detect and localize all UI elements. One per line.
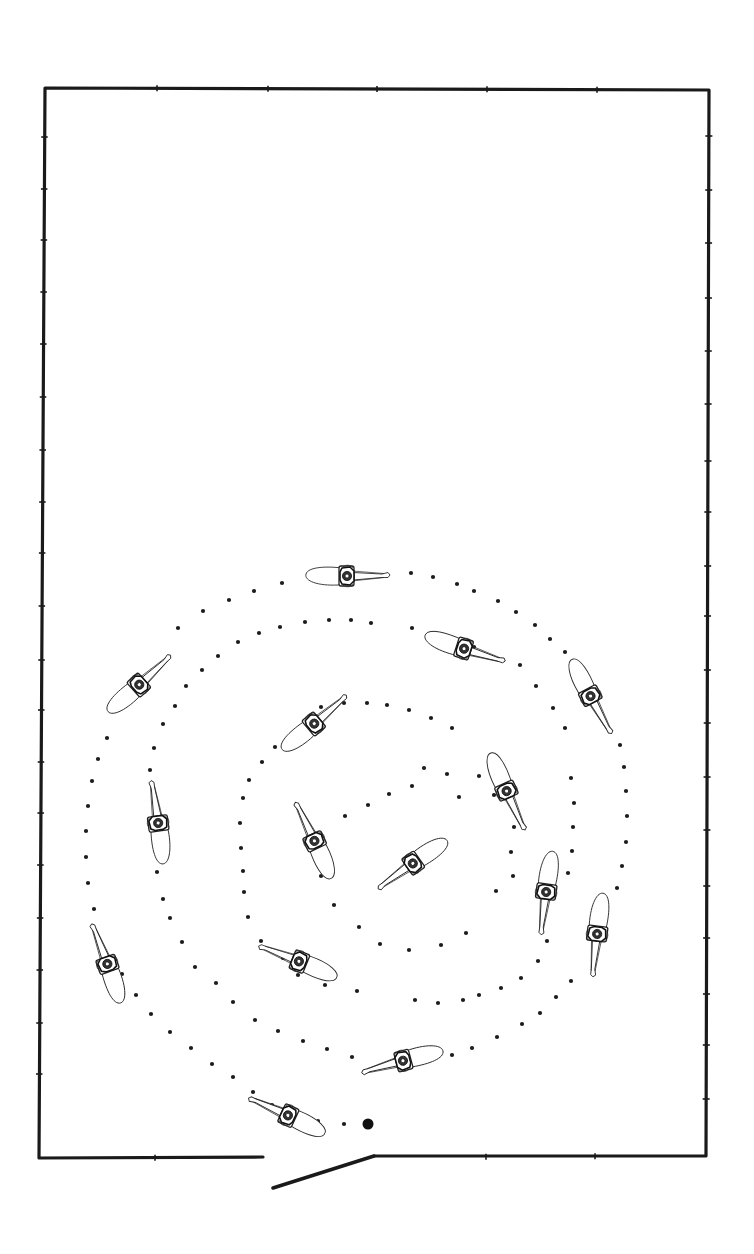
path-dot [92, 907, 96, 911]
path-dot [387, 792, 391, 796]
path-dot [413, 998, 417, 1002]
path-dot [514, 610, 518, 614]
path-dot [241, 796, 245, 800]
path-dot [512, 825, 516, 829]
path-dot [365, 701, 369, 705]
gate-leaf [273, 1156, 374, 1188]
path-dot [227, 598, 231, 602]
path-dot [253, 1018, 257, 1022]
horse-and-rider-icon [255, 935, 341, 987]
path-dot [563, 726, 567, 730]
path-dot [343, 814, 347, 818]
arena-diagram [0, 0, 754, 1254]
path-dot [357, 925, 361, 929]
horse-and-rider-icon [581, 892, 613, 978]
path-dot [189, 1046, 193, 1050]
path-dot [149, 1012, 153, 1016]
path-dot [499, 986, 503, 990]
horse-and-rider-icon [82, 920, 131, 1007]
horse-and-rider-icon [562, 655, 621, 739]
horse-and-rider-icon [286, 797, 341, 882]
path-dot [96, 757, 100, 761]
path-dot [569, 979, 573, 983]
path-dot [342, 1122, 346, 1126]
path-dot [168, 1030, 172, 1034]
path-dot [278, 625, 282, 629]
path-dot [86, 804, 90, 808]
path-dot [422, 766, 426, 770]
horse-and-rider-icon [371, 831, 452, 897]
path-dot [407, 708, 411, 712]
path-dot [86, 881, 90, 885]
path-dot [257, 631, 261, 635]
path-dot [410, 626, 414, 630]
path-dot [90, 779, 94, 783]
path-dot [620, 864, 624, 868]
path-dot [276, 1029, 280, 1033]
path-dot [327, 618, 331, 622]
path-dot [260, 760, 264, 764]
path-dot [161, 722, 165, 726]
path-dot [323, 983, 327, 987]
path-dot [472, 589, 476, 593]
path-dot [496, 599, 500, 603]
path-dot [622, 765, 626, 769]
path-dot [410, 784, 414, 788]
path-dot [273, 745, 277, 749]
path-dot [319, 705, 323, 709]
path-dot [439, 943, 443, 947]
path-dot [618, 743, 622, 747]
path-dot [571, 825, 575, 829]
path-dot [461, 998, 465, 1002]
path-dot [492, 793, 496, 797]
path-dot [366, 803, 370, 807]
path-dot [495, 1035, 499, 1039]
path-dot [494, 889, 498, 893]
path-dot [241, 869, 245, 873]
path-dot [407, 948, 411, 952]
path-dot [242, 890, 246, 894]
path-dot [464, 931, 468, 935]
path-dot [168, 916, 172, 920]
path-dot [84, 855, 88, 859]
start-point-marker [363, 1119, 374, 1130]
horse-and-rider-icon [101, 648, 178, 720]
path-dot [246, 915, 250, 919]
path-dot [236, 640, 240, 644]
path-dot [533, 623, 537, 627]
horse-and-rider-icon [276, 688, 354, 759]
path-dot [161, 897, 165, 901]
path-dot [615, 886, 619, 890]
path-dot [152, 746, 156, 750]
horse-and-rider-icon [529, 850, 562, 936]
path-dot [520, 1022, 524, 1026]
path-dot [570, 849, 574, 853]
path-dot [251, 1090, 255, 1094]
path-dot [566, 871, 570, 875]
horse-and-rider-icon [141, 779, 174, 865]
start-marker [363, 1119, 374, 1130]
path-dot [349, 618, 353, 622]
path-dot [325, 1047, 329, 1051]
path-dot [536, 959, 540, 963]
path-dot [409, 571, 413, 575]
arena-wall [39, 88, 709, 1158]
path-dot [296, 973, 300, 977]
path-dot [450, 726, 454, 730]
path-dot [173, 704, 177, 708]
path-dot [455, 582, 459, 586]
path-dot [450, 1053, 454, 1057]
path-dot [247, 778, 251, 782]
path-dot [176, 626, 180, 630]
path-dot [378, 942, 382, 946]
path-dot [155, 870, 159, 874]
path-dot [554, 995, 558, 999]
horse-and-rider-icon [306, 565, 390, 587]
path-dot [624, 789, 628, 793]
path-dot [538, 1011, 542, 1015]
path-dot [624, 840, 628, 844]
path-dot [259, 939, 263, 943]
path-dot [303, 620, 307, 624]
path-dot [519, 976, 523, 980]
path-dot [457, 795, 461, 799]
